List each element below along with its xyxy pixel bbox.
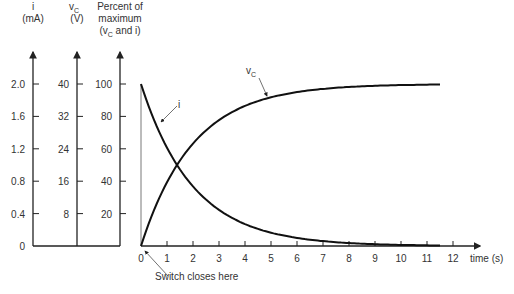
i-axis: i (mA) 00.40.81.21.62.0 xyxy=(11,1,44,252)
y-tick-label: 24 xyxy=(58,144,70,155)
vc-curve-label: vC xyxy=(246,65,267,96)
i-axis-unit: (mA) xyxy=(22,13,44,24)
time-axis-label: time (s) xyxy=(470,253,503,264)
vc-axis-unit: (V) xyxy=(70,13,83,24)
y-tick-label: 1.2 xyxy=(11,144,25,155)
x-tick-label: 2 xyxy=(190,253,196,264)
y-tick-label: 60 xyxy=(101,144,113,155)
y-tick-label: 0 xyxy=(19,241,25,252)
percent-axis-label-1: Percent of xyxy=(97,1,143,12)
percent-axis-label-3: (vC and i) xyxy=(99,25,140,38)
svg-text:vC: vC xyxy=(246,65,256,78)
y-tick-label: 0.8 xyxy=(11,176,25,187)
y-tick-label: 32 xyxy=(58,111,70,122)
svg-text:Switch closes here: Switch closes here xyxy=(155,271,239,282)
x-tick-label: 6 xyxy=(294,253,300,264)
percent-axis-label-2: maximum xyxy=(98,13,141,24)
x-tick-label: 11 xyxy=(422,253,433,264)
y-tick-label: 40 xyxy=(101,176,113,187)
y-tick-label: 8 xyxy=(63,209,69,220)
i-curve-label: i xyxy=(161,99,180,122)
y-tick-label: 20 xyxy=(101,209,113,220)
vc-curve xyxy=(141,85,440,247)
vc-axis: vC (V) 816243240 xyxy=(58,1,84,246)
x-tick-label: 0 xyxy=(138,253,144,264)
y-tick-label: 100 xyxy=(95,79,112,90)
i-axis-label: i xyxy=(32,1,34,12)
y-tick-label: 2.0 xyxy=(11,79,25,90)
i-curve xyxy=(141,84,440,246)
x-tick-label: 8 xyxy=(346,253,352,264)
x-tick-label: 9 xyxy=(372,253,378,264)
x-tick-label: 7 xyxy=(320,253,326,264)
y-tick-label: 1.6 xyxy=(11,111,25,122)
percent-axis: Percent of maximum (vC and i) 2040608010… xyxy=(95,1,143,246)
x-tick-label: 4 xyxy=(242,253,248,264)
y-tick-label: 0.4 xyxy=(11,209,25,220)
x-tick-label: 12 xyxy=(447,253,459,264)
rc-charging-chart: i (mA) 00.40.81.21.62.0 vC (V) 816243240… xyxy=(0,0,514,294)
y-tick-label: 16 xyxy=(58,176,70,187)
x-tick-label: 5 xyxy=(268,253,274,264)
x-tick-label: 1 xyxy=(164,253,170,264)
svg-text:i: i xyxy=(178,99,180,110)
y-tick-label: 80 xyxy=(101,111,113,122)
x-tick-label: 10 xyxy=(395,253,407,264)
x-tick-label: 3 xyxy=(216,253,222,264)
y-tick-label: 40 xyxy=(58,79,70,90)
